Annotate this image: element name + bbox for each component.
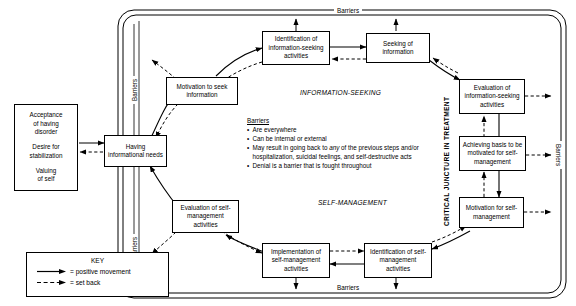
barriers-note-bullet-4: Denial is a barrier that is fought throu… [247, 162, 427, 171]
antecedent-1-line2: of having [33, 120, 59, 127]
barrier-label-right: Barriers [555, 141, 562, 169]
node-seeking-of-information-label: Seeking of information [369, 40, 427, 57]
node-motivation-for-self-management[interactable]: Motivation for self-management [459, 197, 524, 228]
node-having-informational-needs-label: Having informational needs [107, 143, 164, 160]
node-seeking-of-information[interactable]: Seeking of information [366, 33, 430, 63]
diagram-canvas: Acceptance of having disorder Desire for… [0, 0, 576, 306]
node-evaluation-of-information-seeking-activities-label: Evaluation of information-seeking activi… [462, 84, 522, 110]
node-motivation-to-seek-information-label: Motivation to seek information [169, 83, 235, 100]
section-label-self-management: SELF-MANAGEMENT [318, 199, 387, 206]
node-having-informational-needs[interactable]: Having informational needs [104, 135, 167, 167]
barrier-label-top: Barriers [334, 7, 362, 14]
barrier-label-bottom: Barriers [334, 284, 362, 291]
section-label-critical-juncture: CRITICAL JUNCTURE IN TREATMENT [443, 97, 450, 226]
key-legend-row-positive: = positive movement [27, 268, 168, 275]
node-implementation-of-self-management-activities-label: Implementation of self-management activi… [265, 248, 327, 274]
antecedent-2-line2: stabilization [30, 152, 63, 159]
key-legend-positive-label: = positive movement [70, 268, 131, 275]
node-identification-of-self-management-activities-label: Identification of self-management activi… [367, 248, 429, 274]
key-legend-title: KEY [27, 257, 168, 264]
antecedent-item-1: Acceptance of having disorder [30, 111, 63, 137]
dashed-arrow-icon [37, 279, 67, 286]
key-legend-setback-label: = set back [70, 279, 100, 286]
node-motivation-for-self-management-label: Motivation for self-management [462, 204, 521, 221]
antecedent-3-line1: Valuing [36, 167, 57, 174]
node-evaluation-of-self-management-activities-label: Evaluation of self-management activities [175, 204, 236, 230]
section-label-information-seeking: INFORMATION-SEEKING [300, 89, 381, 96]
antecedents-box: Acceptance of having disorder Desire for… [14, 104, 78, 191]
barriers-note-bullet-3-emphasis: any [329, 144, 339, 151]
barrier-label-left-upper: Barriers [131, 76, 138, 104]
key-legend-row-setback: = set back [27, 279, 168, 286]
antecedent-1-line1: Acceptance [30, 111, 63, 118]
barriers-note-bullet-3: May result in going back to any of the p… [247, 144, 427, 162]
antecedent-item-2: Desire for stabilization [30, 143, 63, 160]
antecedent-3-line2: of self [38, 175, 55, 182]
node-evaluation-of-self-management-activities[interactable]: Evaluation of self-management activities [172, 200, 239, 233]
barriers-note-title: Barriers [247, 117, 427, 126]
key-legend: KEY = positive movement = set back [26, 252, 169, 297]
node-identification-of-information-seeking-activities-label: Identification of information-seeking ac… [265, 35, 327, 61]
barriers-note-list: Are everywhere Can be internal or extern… [247, 126, 427, 171]
barriers-note: Barriers Are everywhere Can be internal … [247, 117, 427, 171]
barriers-note-bullet-1: Are everywhere [247, 126, 427, 135]
node-achieving-basis-label: Achieving basis to be motivated for self… [462, 141, 523, 167]
solid-arrow-icon [37, 268, 67, 275]
barriers-note-bullet-2: Can be internal or external [247, 135, 427, 144]
barriers-note-bullet-3-pre: May result in going back to [253, 144, 330, 151]
node-motivation-to-seek-information[interactable]: Motivation to seek information [166, 77, 238, 105]
node-identification-of-information-seeking-activities[interactable]: Identification of information-seeking ac… [262, 31, 330, 65]
antecedent-item-3: Valuing of self [36, 167, 57, 184]
node-identification-of-self-management-activities[interactable]: Identification of self-management activi… [364, 243, 432, 278]
node-achieving-basis-to-be-motivated-for-self-management[interactable]: Achieving basis to be motivated for self… [459, 136, 526, 171]
node-implementation-of-self-management-activities[interactable]: Implementation of self-management activi… [262, 243, 330, 278]
node-evaluation-of-information-seeking-activities[interactable]: Evaluation of information-seeking activi… [459, 79, 525, 114]
antecedent-1-line3: disorder [35, 128, 58, 135]
antecedent-2-line1: Desire for [32, 143, 59, 150]
